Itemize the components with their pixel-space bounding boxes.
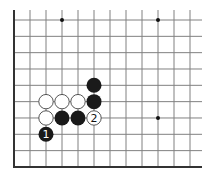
star-point-icon bbox=[156, 18, 160, 22]
black-stone bbox=[55, 110, 70, 125]
white-stone-icon bbox=[55, 94, 69, 108]
white-stone bbox=[39, 111, 53, 125]
star-point-icon bbox=[156, 116, 160, 120]
black-stone-icon bbox=[87, 78, 102, 93]
move-number-label: 2 bbox=[91, 112, 98, 125]
white-stone bbox=[55, 94, 69, 108]
white-stone-icon bbox=[71, 94, 85, 108]
stones: 21 bbox=[39, 78, 102, 142]
black-stone bbox=[87, 78, 102, 93]
go-board: 21 bbox=[0, 0, 202, 177]
black-stone-icon bbox=[71, 110, 86, 125]
black-stone bbox=[71, 110, 86, 125]
white-stone-icon bbox=[39, 94, 53, 108]
black-stone bbox=[87, 94, 102, 109]
star-point-icon bbox=[60, 18, 64, 22]
white-stone bbox=[71, 94, 85, 108]
black-stone-icon bbox=[55, 110, 70, 125]
move-number-label: 1 bbox=[43, 128, 50, 141]
black-stone-icon bbox=[87, 94, 102, 109]
white-stone-2: 2 bbox=[87, 111, 101, 125]
white-stone bbox=[39, 94, 53, 108]
board-grid bbox=[13, 10, 202, 168]
black-stone-1: 1 bbox=[39, 127, 54, 142]
white-stone-icon bbox=[39, 111, 53, 125]
